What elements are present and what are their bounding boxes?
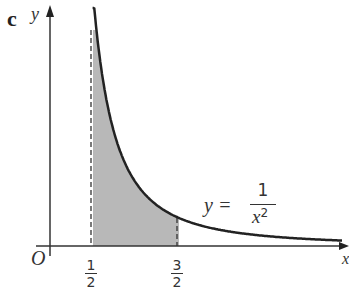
x-axis-arrow-icon (339, 242, 349, 250)
y-axis-arrow-icon (46, 5, 54, 17)
tick-label-three-halves: 3 2 (169, 258, 185, 289)
tick-label-half: 1 2 (83, 258, 99, 289)
graph (0, 0, 349, 298)
origin-label: O (31, 247, 45, 270)
y-axis-label: y (31, 4, 39, 25)
shaded-area (93, 30, 179, 246)
x-axis-label: x (342, 250, 349, 268)
